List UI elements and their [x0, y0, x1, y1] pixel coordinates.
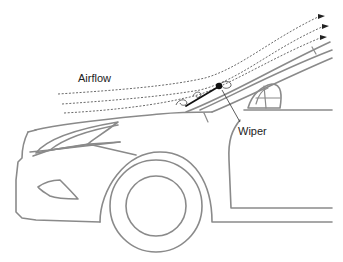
side-mirror — [244, 84, 332, 110]
wheel — [110, 160, 202, 252]
airflow-label: Airflow — [78, 72, 111, 84]
airflow-arrowheads — [318, 14, 329, 40]
wiper-label: Wiper — [238, 125, 267, 137]
car-body — [16, 112, 332, 222]
windshield — [186, 42, 332, 112]
wiper — [186, 83, 240, 122]
car-airflow-diagram — [0, 0, 343, 262]
